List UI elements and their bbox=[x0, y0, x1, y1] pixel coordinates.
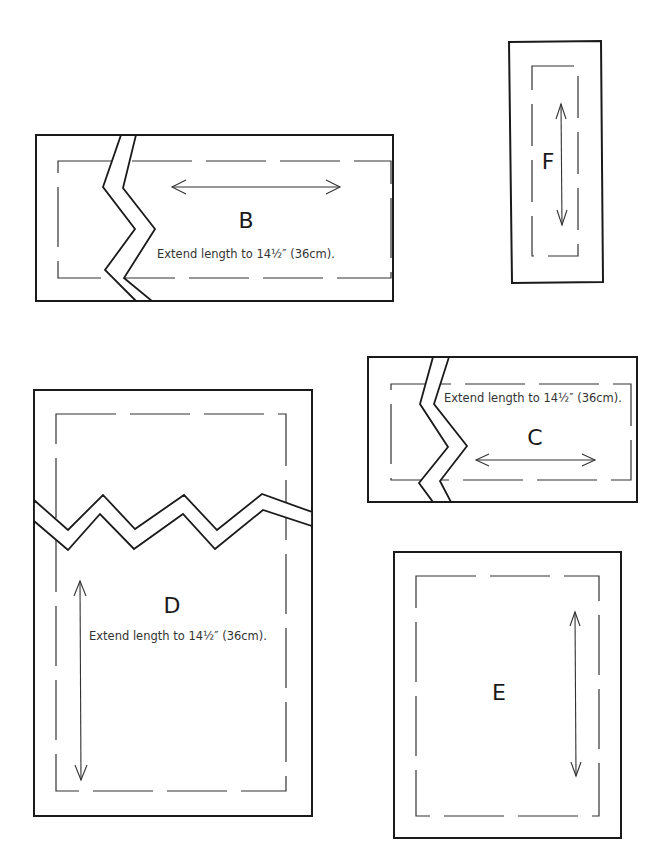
cut-line-e bbox=[394, 552, 621, 838]
pattern-sheet: B Extend length to 14½″ (36cm). F C Exte… bbox=[0, 0, 663, 863]
pattern-piece-e: E bbox=[394, 552, 621, 838]
pattern-piece-c: C Extend length to 14½″ (36cm). bbox=[368, 357, 637, 502]
piece-label-c: C bbox=[527, 425, 542, 450]
piece-label-d: D bbox=[164, 593, 181, 618]
piece-label-f: F bbox=[542, 149, 555, 174]
seam-line-f bbox=[532, 66, 578, 256]
piece-note-d: Extend length to 14½″ (36cm). bbox=[89, 629, 267, 643]
pattern-piece-b: B Extend length to 14½″ (36cm). bbox=[36, 135, 393, 301]
grainline-arrow-c bbox=[476, 454, 595, 466]
piece-note-b: Extend length to 14½″ (36cm). bbox=[157, 247, 335, 261]
seam-line-e bbox=[416, 576, 599, 816]
cut-line-b bbox=[36, 135, 393, 301]
piece-label-b: B bbox=[238, 208, 253, 233]
grainline-arrow-b bbox=[172, 180, 340, 194]
extension-break-b bbox=[103, 135, 155, 301]
grainline-arrow-d bbox=[74, 581, 87, 780]
cut-line-f bbox=[509, 41, 603, 283]
pattern-piece-d: D Extend length to 14½″ (36cm). bbox=[34, 390, 312, 816]
extension-break-d bbox=[34, 494, 312, 550]
piece-note-c: Extend length to 14½″ (36cm). bbox=[444, 391, 622, 405]
piece-label-e: E bbox=[492, 680, 506, 705]
pattern-piece-f: F bbox=[509, 41, 603, 283]
grainline-arrow-f bbox=[556, 104, 567, 225]
grainline-arrow-e bbox=[570, 612, 581, 776]
